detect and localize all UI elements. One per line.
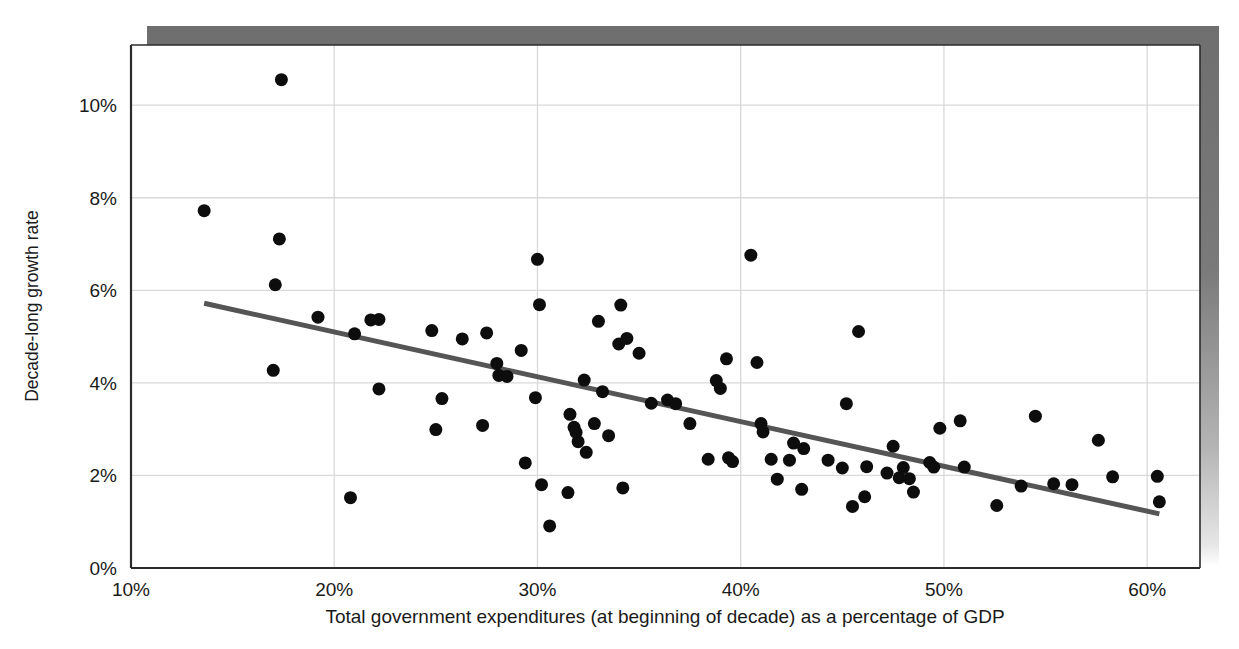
scatter-point bbox=[572, 435, 585, 448]
scatter-point bbox=[720, 352, 733, 365]
x-tick-label: 50% bbox=[925, 579, 963, 600]
scatter-point bbox=[1029, 410, 1042, 423]
scatter-point bbox=[500, 370, 513, 383]
scatter-point bbox=[897, 461, 910, 474]
scatter-point bbox=[958, 461, 971, 474]
scatter-point bbox=[702, 453, 715, 466]
scatter-point bbox=[198, 204, 211, 217]
scatter-point bbox=[903, 472, 916, 485]
x-tick-label: 30% bbox=[518, 579, 556, 600]
scatter-point bbox=[563, 408, 576, 421]
y-tick-label: 0% bbox=[90, 558, 118, 579]
scatter-point bbox=[515, 344, 528, 357]
scatter-point bbox=[588, 417, 601, 430]
scatter-point bbox=[1151, 470, 1164, 483]
scatter-point bbox=[476, 419, 489, 432]
scatter-point bbox=[887, 440, 900, 453]
scatter-point bbox=[771, 473, 784, 486]
scatter-point bbox=[616, 481, 629, 494]
y-tick-label: 4% bbox=[90, 373, 118, 394]
scatter-point bbox=[645, 397, 658, 410]
x-tick-label: 20% bbox=[315, 579, 353, 600]
scatter-point bbox=[683, 417, 696, 430]
scatter-point bbox=[860, 460, 873, 473]
scatter-point bbox=[348, 327, 361, 340]
scatter-point bbox=[480, 326, 493, 339]
scatter-point bbox=[1092, 434, 1105, 447]
y-tick-label: 8% bbox=[90, 188, 118, 209]
scatter-point bbox=[927, 461, 940, 474]
scatter-point bbox=[633, 347, 646, 360]
scatter-point bbox=[907, 486, 920, 499]
x-tick-label: 60% bbox=[1128, 579, 1166, 600]
scatter-point bbox=[881, 467, 894, 480]
scatter-point bbox=[1047, 477, 1060, 490]
y-tick-label: 6% bbox=[90, 280, 118, 301]
scatter-point bbox=[561, 486, 574, 499]
scatter-point bbox=[783, 454, 796, 467]
scatter-point bbox=[836, 462, 849, 475]
scatter-plot-svg: 0%2%4%6%8%10% 10%20%30%40%50%60% Decade-… bbox=[0, 0, 1239, 649]
scatter-point bbox=[1153, 495, 1166, 508]
scatter-point bbox=[580, 446, 593, 459]
scatter-point bbox=[578, 374, 591, 387]
scatter-point bbox=[726, 455, 739, 468]
scatter-point bbox=[531, 253, 544, 266]
scatter-point bbox=[592, 315, 605, 328]
scatter-point bbox=[267, 364, 280, 377]
scatter-point bbox=[372, 382, 385, 395]
y-tick-labels: 0%2%4%6%8%10% bbox=[79, 95, 117, 579]
x-axis-title: Total government expenditures (at beginn… bbox=[325, 606, 1004, 627]
scatter-point bbox=[614, 299, 627, 312]
scatter-point bbox=[519, 456, 532, 469]
scatter-point bbox=[933, 422, 946, 435]
scatter-point bbox=[954, 414, 967, 427]
scatter-point bbox=[435, 392, 448, 405]
scatter-point bbox=[344, 491, 357, 504]
scatter-point bbox=[669, 397, 682, 410]
scatter-point bbox=[533, 298, 546, 311]
scatter-point bbox=[620, 332, 633, 345]
x-tick-label: 40% bbox=[722, 579, 760, 600]
scatter-point bbox=[1106, 470, 1119, 483]
scatter-point bbox=[529, 391, 542, 404]
scatter-point bbox=[275, 73, 288, 86]
scatter-point bbox=[596, 385, 609, 398]
scatter-point bbox=[846, 500, 859, 513]
scatter-point bbox=[602, 429, 615, 442]
scatter-point bbox=[990, 499, 1003, 512]
scatter-point bbox=[750, 356, 763, 369]
scatter-point bbox=[372, 313, 385, 326]
scatter-point bbox=[858, 490, 871, 503]
scatter-point bbox=[1015, 480, 1028, 493]
scatter-point bbox=[429, 423, 442, 436]
scatter-point bbox=[757, 425, 770, 438]
scatter-point bbox=[535, 478, 548, 491]
scatter-point bbox=[311, 311, 324, 324]
scatter-point bbox=[795, 483, 808, 496]
chart-figure: 0%2%4%6%8%10% 10%20%30%40%50%60% Decade-… bbox=[0, 0, 1239, 649]
scatter-point bbox=[714, 382, 727, 395]
scatter-point bbox=[744, 249, 757, 262]
x-tick-labels: 10%20%30%40%50%60% bbox=[112, 579, 1166, 600]
scatter-point bbox=[797, 442, 810, 455]
scatter-point bbox=[1065, 478, 1078, 491]
x-tick-label: 10% bbox=[112, 579, 150, 600]
scatter-point bbox=[840, 397, 853, 410]
y-tick-label: 10% bbox=[79, 95, 117, 116]
scatter-point bbox=[852, 325, 865, 338]
scatter-point bbox=[490, 357, 503, 370]
y-tick-label: 2% bbox=[90, 465, 118, 486]
scatter-point bbox=[425, 324, 438, 337]
scatter-point bbox=[456, 332, 469, 345]
y-axis-title: Decade-long growth rate bbox=[22, 210, 42, 402]
scatter-point bbox=[543, 519, 556, 532]
scatter-point bbox=[269, 278, 282, 291]
scatter-point bbox=[273, 232, 286, 245]
scatter-point bbox=[822, 454, 835, 467]
scatter-point bbox=[765, 453, 778, 466]
